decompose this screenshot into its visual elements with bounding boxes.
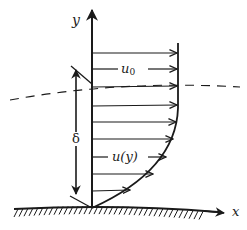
boundary-layer-edge-dashed xyxy=(10,85,240,100)
velocity-arrow xyxy=(92,86,177,87)
wall-surface xyxy=(14,206,218,219)
x-axis xyxy=(205,211,224,213)
free-stream-velocity-label: u0 xyxy=(121,61,135,77)
y-axis-label: y xyxy=(71,12,81,28)
x-axis-label: x xyxy=(232,204,240,219)
velocity-arrow xyxy=(92,105,177,106)
boundary-layer-diagram: x y u0 u(y) δ xyxy=(0,0,247,230)
thickness-label: δ xyxy=(72,131,80,146)
profile-velocity-label: u(y) xyxy=(112,149,138,164)
